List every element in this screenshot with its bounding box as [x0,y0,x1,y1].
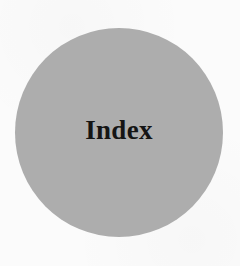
section-title: Index [85,115,153,146]
section-badge-circle: Index [15,28,223,237]
